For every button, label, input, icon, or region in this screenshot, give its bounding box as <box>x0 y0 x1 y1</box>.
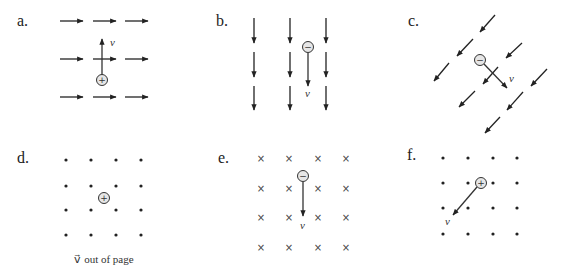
velocity-arrow-down-right <box>484 64 507 88</box>
panel-a: a. v⃗ + <box>17 12 148 97</box>
svg-text:+: + <box>100 193 108 203</box>
svg-text:×: × <box>314 183 322 194</box>
velocity-label: v⃗ <box>110 36 123 48</box>
svg-text:×: × <box>314 212 322 223</box>
panel-f: f. v⃗ + <box>407 146 519 236</box>
svg-text:×: × <box>314 242 322 253</box>
positive-charge: + <box>99 193 110 204</box>
velocity-caption: v⃗ out of page <box>74 253 133 265</box>
svg-text:−: − <box>304 42 312 52</box>
svg-text:−: − <box>476 55 484 65</box>
negative-charge: − <box>298 171 309 182</box>
svg-text:×: × <box>285 212 293 223</box>
panel-label-c: c. <box>408 12 419 29</box>
panel-c: c. v⃗ − <box>408 12 547 133</box>
svg-text:×: × <box>342 212 350 223</box>
svg-text:−: − <box>299 171 307 181</box>
svg-text:×: × <box>342 183 350 194</box>
svg-text:×: × <box>342 153 350 164</box>
svg-text:×: × <box>285 153 293 164</box>
field-arrows-down-left <box>434 15 547 133</box>
panel-d: d. + v⃗ out of page <box>17 149 143 265</box>
velocity-label: v⃗ <box>305 87 318 99</box>
panel-label-f: f. <box>407 146 416 163</box>
svg-text:×: × <box>257 242 265 253</box>
svg-text:×: × <box>285 242 293 253</box>
negative-charge: − <box>303 42 314 53</box>
panel-label-e: e. <box>218 149 229 166</box>
svg-text:+: + <box>98 75 106 85</box>
svg-text:×: × <box>257 183 265 194</box>
velocity-label: v⃗ <box>300 219 313 231</box>
diagram-canvas: a. v⃗ + b. <box>0 0 564 278</box>
svg-text:×: × <box>314 153 322 164</box>
svg-text:×: × <box>257 212 265 223</box>
panel-b: b. v⃗ − <box>216 12 326 110</box>
velocity-label: v⃗ <box>445 215 458 227</box>
svg-text:+: + <box>477 178 485 188</box>
negative-charge: − <box>475 55 486 66</box>
positive-charge: + <box>476 178 487 189</box>
svg-text:×: × <box>257 153 265 164</box>
panel-e: e. ×××× ×××× ×××× ×××× v⃗ − <box>218 149 350 253</box>
panel-label-d: d. <box>17 149 29 166</box>
svg-text:×: × <box>285 183 293 194</box>
svg-text:×: × <box>342 242 350 253</box>
velocity-label: v⃗ <box>509 72 522 84</box>
positive-charge: + <box>97 75 108 86</box>
velocity-arrow-down-left <box>453 187 477 215</box>
panel-label-a: a. <box>17 12 28 29</box>
panel-label-b: b. <box>216 12 228 29</box>
